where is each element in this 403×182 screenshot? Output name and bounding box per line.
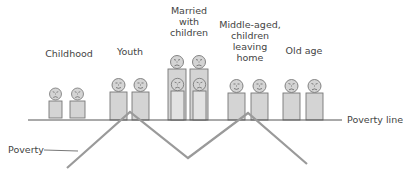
adult-body xyxy=(283,93,300,120)
poverty-line-label: Poverty line xyxy=(347,114,403,125)
adult-body xyxy=(306,93,323,120)
sad-face-icon xyxy=(72,88,84,100)
stage-married-figures xyxy=(168,56,208,121)
sad-face-icon xyxy=(193,78,205,90)
sad-face-icon xyxy=(171,78,183,90)
stage-label-married: Married with children xyxy=(164,5,214,38)
child-body xyxy=(193,91,206,120)
stage-old-age-figures xyxy=(283,80,323,121)
stage-label-youth: Youth xyxy=(110,46,150,57)
happy-face-icon xyxy=(112,79,125,92)
poverty-label: Poverty xyxy=(8,144,44,155)
stage-label-middle-aged: Middle-aged, children leaving home xyxy=(218,19,282,63)
stage-childhood-figures xyxy=(49,88,85,118)
happy-face-icon xyxy=(230,80,243,93)
child-body xyxy=(49,101,62,118)
happy-face-icon xyxy=(134,79,147,92)
happy-face-icon xyxy=(253,80,266,93)
stage-label-old-age: Old age xyxy=(284,45,324,56)
sad-face-icon xyxy=(308,80,321,93)
child-body xyxy=(70,101,85,118)
adult-body xyxy=(251,93,268,120)
poverty-pointer-line xyxy=(44,150,78,151)
stage-label-childhood: Childhood xyxy=(44,48,94,59)
sad-face-icon xyxy=(171,56,184,69)
sad-face-icon xyxy=(193,56,206,69)
sad-face-icon xyxy=(50,88,62,100)
child-body xyxy=(171,91,184,120)
sad-face-icon xyxy=(285,80,298,93)
